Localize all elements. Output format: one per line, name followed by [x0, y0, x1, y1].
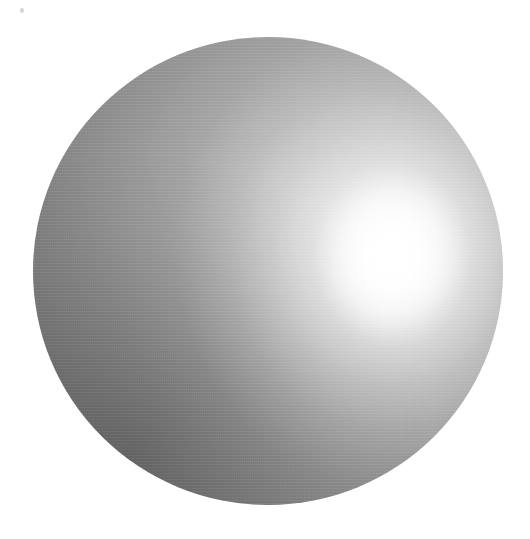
film-grain-texture: [33, 37, 503, 505]
dust-speck: [20, 8, 24, 13]
image-canvas: Glossy light-gray sphere lit from the up…: [0, 0, 530, 539]
sphere: [33, 37, 503, 505]
